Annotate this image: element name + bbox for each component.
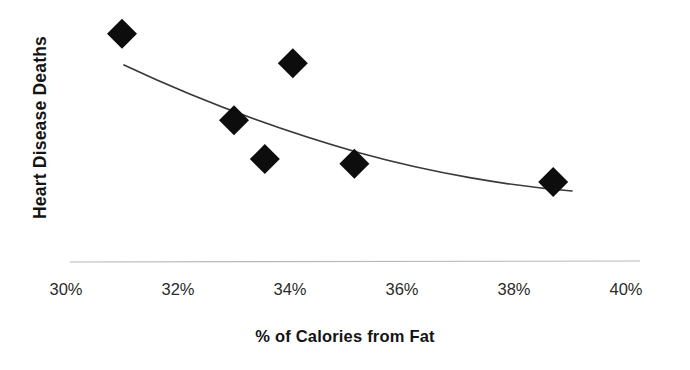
chart-container: Heart Disease Deaths 30%32%34%36%38%40% … bbox=[0, 0, 690, 370]
x-tick-label: 32% bbox=[143, 280, 213, 299]
y-axis-title: Heart Disease Deaths bbox=[30, 0, 51, 256]
data-point-marker bbox=[339, 149, 369, 179]
data-point-marker bbox=[278, 48, 308, 78]
data-point-group bbox=[107, 19, 568, 197]
x-tick-label: 34% bbox=[255, 280, 325, 299]
data-point-marker bbox=[250, 144, 280, 174]
scatter-plot-canvas bbox=[0, 0, 690, 370]
x-axis-line bbox=[70, 261, 640, 262]
data-point-marker bbox=[219, 105, 249, 135]
x-tick-label: 38% bbox=[479, 280, 549, 299]
x-tick-label: 36% bbox=[367, 280, 437, 299]
x-tick-label: 30% bbox=[31, 280, 101, 299]
x-tick-label: 40% bbox=[591, 280, 661, 299]
data-point-marker bbox=[107, 19, 137, 49]
x-axis-title: % of Calories from Fat bbox=[0, 327, 690, 346]
axis-group bbox=[70, 261, 640, 262]
data-point-marker bbox=[538, 167, 568, 197]
